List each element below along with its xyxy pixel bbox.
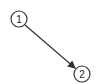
node-1-label: 1 [16, 14, 22, 25]
node-2-label: 2 [79, 69, 85, 80]
node-1[interactable]: 1 [11, 11, 27, 27]
graph-canvas: 1 2 [0, 0, 100, 84]
node-2[interactable]: 2 [74, 66, 90, 82]
edge-1-to-2 [25, 25, 75, 68]
